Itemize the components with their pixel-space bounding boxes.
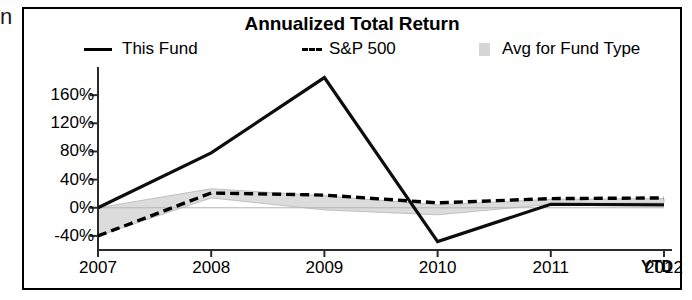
x-tick-label: 2007 bbox=[79, 258, 117, 278]
x-axis-labels: 200720082009201020112012 bbox=[24, 258, 684, 284]
x-tick-label: 2009 bbox=[305, 258, 343, 278]
x-tick-label: 2008 bbox=[192, 258, 230, 278]
x-axis-ticks bbox=[98, 250, 664, 257]
y-tick-label: 0% bbox=[26, 198, 94, 218]
y-tick-label: 80% bbox=[26, 141, 94, 161]
chart-screenshot: n Annualized Total Return This Fund S&P … bbox=[0, 0, 692, 300]
chart-panel: Annualized Total Return This Fund S&P 50… bbox=[22, 7, 682, 290]
y-tick-label: -40% bbox=[26, 226, 94, 246]
y-tick-label: 40% bbox=[26, 170, 94, 190]
page-edge-glyph: n bbox=[0, 4, 14, 30]
x-tick-label: 2010 bbox=[419, 258, 457, 278]
y-tick-label: 120% bbox=[26, 113, 94, 133]
y-axis-labels: 160%120%80%40%0%-40% bbox=[26, 9, 94, 292]
chart-canvas bbox=[24, 9, 684, 292]
avg-fund-type-band bbox=[98, 189, 664, 236]
y-tick-label: 160% bbox=[26, 85, 94, 105]
x-tick-label: 2011 bbox=[533, 258, 570, 278]
series-line-this-fund bbox=[98, 78, 664, 242]
plot-area: 160%120%80%40%0%-40% 2007200820092010201… bbox=[24, 9, 684, 292]
x-axis-ytd-suffix: YTD bbox=[641, 258, 673, 276]
